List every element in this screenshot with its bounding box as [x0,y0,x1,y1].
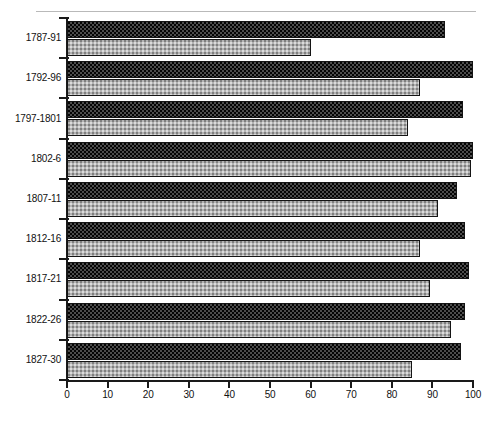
x-tick [107,380,109,388]
bar-series-dark [67,21,445,38]
x-tick [350,380,352,388]
x-tick [431,380,433,388]
bar-series-dark [67,101,463,118]
bar-group [67,179,473,219]
bar-series-light [67,39,311,56]
bar-group [67,139,473,179]
x-tick [269,380,271,388]
bar-group [67,18,473,58]
bar-group [67,98,473,138]
bar-series-light [67,200,438,217]
x-tick-label: 0 [47,389,87,400]
bar-series-dark [67,222,465,239]
x-tick-label: 20 [128,389,168,400]
x-tick [391,380,393,388]
bar-series-dark [67,343,461,360]
x-tick [147,380,149,388]
x-tick-label: 40 [209,389,249,400]
x-tick [472,380,474,388]
bar-series-dark [67,182,457,199]
x-tick [228,380,230,388]
bar-series-dark [67,61,473,78]
bar-group [67,340,473,380]
x-tick [188,380,190,388]
y-tick-label: 1802-6 [1,153,61,164]
y-tick-label: 1797-1801 [1,113,61,124]
bar-series-dark [67,142,473,159]
top-rule [36,11,476,12]
bar-series-light [67,160,471,177]
bar-series-light [67,321,451,338]
bar-series-light [67,119,408,136]
x-tick [66,380,68,388]
x-tick-label: 100 [453,389,493,400]
bar-group [67,58,473,98]
bar-group [67,219,473,259]
y-tick-label: 1817-21 [1,273,61,284]
y-tick-label: 1812-16 [1,233,61,244]
y-tick-label: 1827-30 [1,354,61,365]
bar-series-dark [67,303,465,320]
bar-group [67,300,473,340]
y-tick-label: 1822-26 [1,314,61,325]
bar-series-light [67,280,430,297]
x-tick-label: 70 [331,389,371,400]
x-tick-label: 80 [372,389,412,400]
bar-chart-figure: 1787-911792-961797-18011802-61807-111812… [0,0,500,425]
bar-series-light [67,79,420,96]
bar-series-dark [67,262,469,279]
x-tick [310,380,312,388]
bar-series-light [67,240,420,257]
x-tick-label: 60 [291,389,331,400]
x-tick-label: 10 [88,389,128,400]
y-tick-label: 1807-11 [1,193,61,204]
bar-series-light [67,361,412,378]
y-tick-label: 1787-91 [1,32,61,43]
y-tick-label: 1792-96 [1,72,61,83]
bar-group [67,259,473,299]
x-tick-label: 50 [250,389,290,400]
x-tick-label: 30 [169,389,209,400]
x-tick-label: 90 [412,389,452,400]
plot-area [67,18,473,380]
